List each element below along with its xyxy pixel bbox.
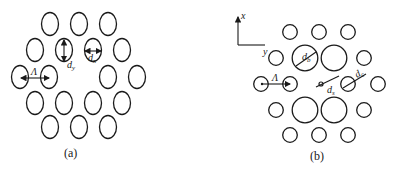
db-label: db — [302, 51, 311, 64]
y-axis-label: y — [262, 46, 268, 57]
elliptical-air-hole — [71, 13, 88, 36]
cladding-air-hole — [269, 51, 284, 66]
elliptical-air-hole — [100, 116, 117, 139]
diagram-canvas: dy dx Λ (a) x y db ds dc Λ (b) — [0, 0, 396, 171]
figure-b-annotations: x y db ds dc Λ (b) — [238, 10, 367, 163]
cladding-air-hole — [357, 103, 372, 118]
big-air-hole — [321, 97, 347, 123]
pitch-start-dot — [261, 83, 263, 85]
figure-a-annotations: dy dx Λ (a) — [21, 40, 101, 160]
cladding-air-hole — [283, 128, 298, 143]
elliptical-air-hole — [85, 92, 102, 115]
pitch-label-a: Λ — [30, 66, 37, 77]
elliptical-air-hole — [27, 39, 44, 62]
ds-label: ds — [327, 84, 335, 97]
cladding-air-hole — [312, 128, 327, 143]
elliptical-air-hole — [42, 13, 59, 36]
elliptical-air-hole — [71, 116, 88, 139]
cladding-air-hole — [269, 103, 284, 118]
cladding-air-hole — [371, 77, 386, 92]
x-axis-label: x — [240, 10, 246, 21]
elliptical-air-hole — [114, 92, 131, 115]
dx-label: dx — [88, 52, 97, 65]
caption-b: (b) — [310, 149, 324, 163]
big-air-hole — [321, 45, 347, 71]
cladding-air-hole — [312, 25, 327, 40]
elliptical-air-hole — [114, 39, 131, 62]
cladding-air-hole — [341, 77, 356, 92]
dy-label: dy — [67, 59, 76, 72]
caption-a: (a) — [64, 146, 77, 160]
elliptical-air-hole — [27, 92, 44, 115]
cladding-air-hole — [357, 51, 372, 66]
cladding-air-hole — [341, 25, 356, 40]
elliptical-air-hole — [100, 13, 117, 36]
elliptical-air-hole — [129, 66, 146, 89]
elliptical-air-hole — [100, 66, 117, 89]
cladding-air-hole — [341, 128, 356, 143]
elliptical-air-hole — [42, 116, 59, 139]
cladding-air-hole — [283, 25, 298, 40]
elliptical-air-hole — [12, 66, 29, 89]
pitch-label-b: Λ — [271, 72, 278, 83]
big-air-hole — [292, 97, 318, 123]
elliptical-air-hole — [41, 66, 58, 89]
dc-label: dc — [353, 66, 367, 82]
elliptical-air-hole — [56, 92, 73, 115]
